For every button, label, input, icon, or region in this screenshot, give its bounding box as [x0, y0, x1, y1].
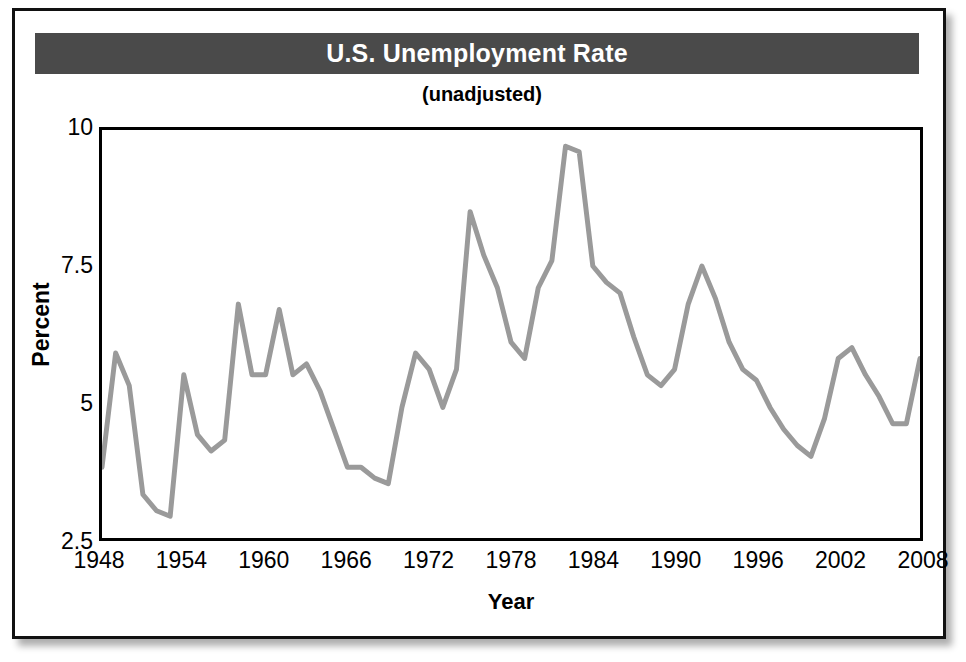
x-tick-label: 1966 — [301, 547, 391, 574]
x-axis-tick-labels: 1948195419601966197219781984199019962002… — [99, 547, 923, 581]
x-tick-label: 1960 — [219, 547, 309, 574]
x-tick-label: 1978 — [466, 547, 556, 574]
unemployment-rate-line-series — [102, 130, 920, 538]
x-tick-label: 2008 — [878, 547, 966, 574]
x-tick-label: 1948 — [54, 547, 144, 574]
plot-area — [99, 127, 923, 541]
figure-frame: U.S. Unemployment Rate (unadjusted) 2.55… — [12, 8, 946, 639]
x-axis-title: Year — [99, 589, 923, 615]
plot-wrapper: 2.557.510 Percent 1948195419601966197219… — [15, 11, 949, 642]
y-tick-label: 10 — [31, 114, 93, 141]
x-tick-label: 1972 — [384, 547, 474, 574]
x-tick-label: 1996 — [713, 547, 803, 574]
x-tick-label: 2002 — [796, 547, 886, 574]
y-axis-title: Percent — [28, 255, 55, 395]
x-tick-label: 1954 — [136, 547, 226, 574]
x-tick-label: 1990 — [631, 547, 721, 574]
series-polyline — [102, 146, 920, 516]
x-tick-label: 1984 — [548, 547, 638, 574]
